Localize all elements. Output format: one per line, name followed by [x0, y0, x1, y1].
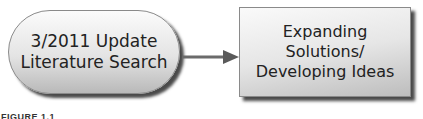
- node-expanding-solutions-line-2: Solutions/: [286, 42, 365, 62]
- figure-caption: FIGURE 1.1: [1, 112, 55, 119]
- arrow-connector-icon: [183, 49, 239, 65]
- node-literature-search: 3/2011 Update Literature Search: [8, 10, 180, 94]
- node-expanding-solutions-line-1: Expanding: [283, 22, 368, 42]
- node-expanding-solutions: Expanding Solutions/ Developing Ideas: [239, 7, 411, 97]
- node-literature-search-line-1: 3/2011 Update: [31, 31, 158, 52]
- node-expanding-solutions-line-3: Developing Ideas: [256, 62, 395, 82]
- node-literature-search-line-2: Literature Search: [20, 52, 167, 73]
